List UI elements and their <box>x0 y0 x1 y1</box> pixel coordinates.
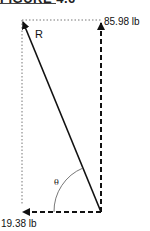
resultant-arrow <box>23 22 101 212</box>
angle-arc <box>54 168 83 212</box>
vertical-force-label: 85.98 lb <box>104 16 140 27</box>
force-vector-diagram <box>0 0 150 231</box>
horizontal-force-label: 19.38 lb <box>1 218 37 229</box>
resultant-label: R <box>35 28 43 40</box>
angle-label: θ <box>54 178 59 187</box>
